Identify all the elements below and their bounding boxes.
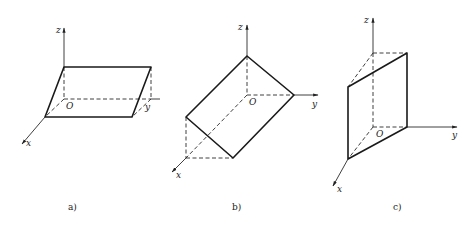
z-label: z [237,22,243,32]
caption-b: b) [232,202,241,212]
plane-c [348,53,407,159]
panel-a: z O y x a) [22,25,160,212]
x-label: x [176,170,181,180]
panel-c: z O y x c) [333,15,458,212]
origin-label: O [249,97,257,107]
z-label: z [55,25,61,35]
caption-c: c) [393,202,402,212]
y-label: y [144,102,151,112]
caption-a: a) [68,202,77,212]
z-label: z [363,15,369,25]
panel-b: z O y x b) [172,22,318,212]
x-label: x [337,184,342,194]
projection-diagrams: z O y x a) z O y x b) [0,0,476,226]
x-axis [333,159,348,186]
x-label: x [26,138,31,148]
plane-a [45,67,151,117]
origin-label: O [66,101,74,111]
plane-b [186,56,294,158]
y-label: y [311,99,318,109]
y-label: y [451,130,458,140]
origin-label: O [376,129,384,139]
